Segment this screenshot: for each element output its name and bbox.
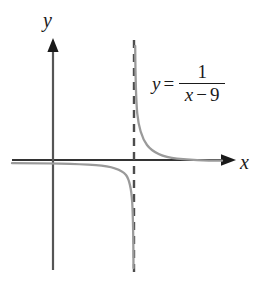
denominator-variable: x — [185, 84, 193, 105]
fraction-numerator: 1 — [191, 62, 213, 83]
plot-canvas — [0, 0, 269, 283]
denominator-operator: − — [196, 84, 207, 105]
x-axis-label: x — [240, 152, 249, 172]
equation-fraction: 1 x−9 — [179, 62, 225, 105]
equation-annotation: y = 1 x−9 — [152, 62, 225, 105]
y-axis — [47, 38, 58, 270]
equation-lhs: y — [152, 73, 160, 95]
fraction-denominator: x−9 — [181, 84, 224, 105]
x-axis-arrowhead — [221, 154, 236, 166]
graph-figure: y x y = 1 x−9 — [0, 0, 269, 283]
denominator-constant: 9 — [210, 84, 220, 105]
curve-left-branch — [12, 163, 134, 268]
equation-equals-sign: = — [163, 73, 174, 95]
y-axis-arrowhead — [47, 38, 58, 52]
y-axis-label: y — [43, 10, 52, 30]
